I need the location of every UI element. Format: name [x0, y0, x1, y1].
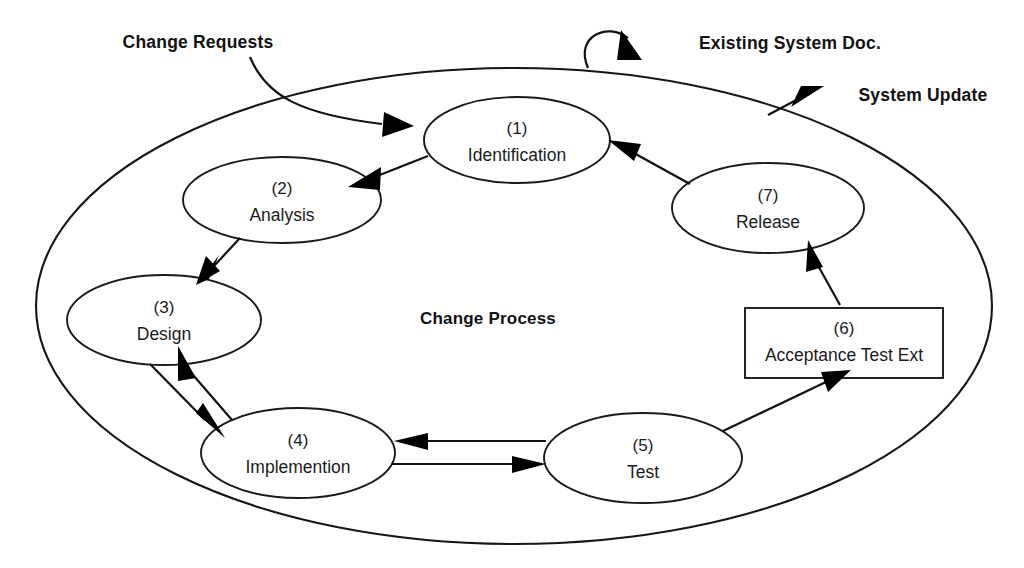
node-identification-index: (1) — [507, 119, 528, 138]
arrowhead-test-to-implementation — [394, 433, 428, 450]
arrowhead-change-requests — [382, 112, 414, 137]
node-acceptance-test-ext-label: Acceptance Test Ext — [765, 345, 923, 365]
node-design-index: (3) — [154, 298, 175, 317]
change-process-diagram: Change Process Change Requests Existing … — [0, 0, 1024, 568]
node-release[interactable]: (7) Release — [672, 163, 864, 253]
arrowhead-test-to-acceptance — [821, 370, 851, 392]
arrowhead-system-update — [791, 86, 824, 107]
node-test-label: Test — [627, 462, 659, 482]
node-design-label: Design — [137, 324, 191, 344]
arrowhead-release-to-identification — [608, 140, 641, 161]
flow-acceptance-to-release — [816, 262, 840, 305]
arrowhead-existing-system-doc — [617, 30, 642, 60]
node-identification-shape — [424, 97, 610, 183]
external-label-system-update: System Update — [858, 85, 987, 105]
change-process-boundary — [36, 68, 992, 544]
arrow-change-requests-to-identification — [250, 57, 382, 124]
external-label-change-requests: Change Requests — [123, 32, 274, 52]
node-identification-label: Identification — [468, 145, 566, 165]
node-implementation-shape — [201, 408, 395, 498]
flow-design-to-implementation — [150, 364, 205, 420]
node-analysis[interactable]: (2) Analysis — [183, 157, 381, 243]
flow-release-to-identification — [632, 152, 690, 184]
node-design[interactable]: (3) Design — [67, 275, 261, 365]
node-acceptance-test-ext[interactable]: (6) Acceptance Test Ext — [745, 308, 943, 378]
node-test[interactable]: (5) Test — [544, 413, 742, 503]
flow-analysis-to-design — [214, 238, 240, 266]
node-implementation[interactable]: (4) Implemention — [201, 408, 395, 498]
node-acceptance-test-ext-index: (6) — [834, 319, 855, 338]
node-test-shape — [544, 413, 742, 503]
node-analysis-shape — [183, 157, 381, 243]
node-implementation-label: Implemention — [245, 457, 350, 477]
node-release-index: (7) — [758, 186, 779, 205]
flow-test-to-acceptance — [723, 381, 828, 431]
diagram-canvas: Change Process Change Requests Existing … — [0, 0, 1024, 568]
node-release-shape — [672, 163, 864, 253]
arrowhead-implementation-to-test — [512, 456, 546, 473]
external-label-existing-system-doc: Existing System Doc. — [699, 33, 881, 53]
change-process-label: Change Process — [420, 309, 556, 328]
node-implementation-index: (4) — [288, 431, 309, 450]
node-analysis-label: Analysis — [249, 205, 314, 225]
node-analysis-index: (2) — [272, 179, 293, 198]
node-identification[interactable]: (1) Identification — [424, 97, 610, 183]
node-design-shape — [67, 275, 261, 365]
node-release-label: Release — [736, 212, 800, 232]
node-test-index: (5) — [633, 436, 654, 455]
